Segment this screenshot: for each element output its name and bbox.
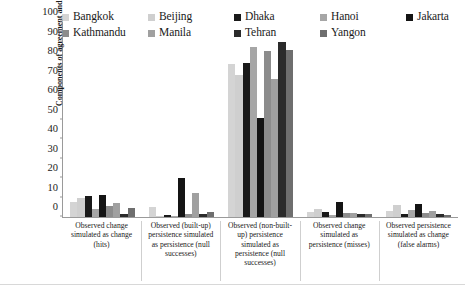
y-axis-tick-label: 10 — [24, 181, 63, 192]
legend-swatch-icon — [320, 14, 327, 21]
y-axis-tick-mark — [60, 60, 63, 61]
y-axis-tick-mark — [60, 99, 63, 100]
bar[interactable] — [178, 178, 185, 217]
category-separator — [300, 221, 301, 281]
bar[interactable] — [149, 207, 156, 217]
bar[interactable] — [228, 64, 235, 217]
bar[interactable] — [286, 50, 293, 217]
y-axis-tick-mark — [60, 216, 63, 217]
bar[interactable] — [307, 212, 314, 217]
y-axis-tick-mark — [60, 177, 63, 178]
bar[interactable] — [264, 51, 271, 217]
bar[interactable] — [156, 216, 163, 217]
bar[interactable] — [235, 75, 242, 217]
bar-group — [142, 22, 221, 217]
bar[interactable] — [343, 213, 350, 217]
footer-divider — [0, 284, 465, 285]
bar[interactable] — [365, 214, 372, 218]
category-separator — [379, 221, 380, 281]
bar[interactable] — [436, 214, 443, 217]
y-axis-tick-label: 50 — [24, 103, 63, 114]
y-axis-tick-mark — [60, 79, 63, 80]
y-axis-tick-label: 90 — [24, 25, 63, 36]
y-axis-tick-label: 20 — [24, 162, 63, 173]
bar[interactable] — [128, 208, 135, 217]
bar-group — [379, 22, 458, 217]
y-axis-tick-label: 60 — [24, 84, 63, 95]
bar[interactable] — [77, 198, 84, 217]
y-axis-tick-label: 80 — [24, 45, 63, 56]
bar[interactable] — [329, 215, 336, 217]
x-axis-category-label: Observed (non-built-up) persistence simu… — [220, 221, 299, 285]
category-separator — [220, 221, 221, 281]
bar[interactable] — [99, 195, 106, 217]
y-axis-tick-mark — [60, 21, 63, 22]
y-axis-tick-label: 30 — [24, 142, 63, 153]
y-axis-tick-mark — [60, 157, 63, 158]
bar[interactable] — [113, 203, 120, 217]
legend-swatch-icon — [406, 14, 413, 21]
bar[interactable] — [70, 202, 77, 217]
y-axis-tick-mark — [60, 196, 63, 197]
bar-groups — [63, 22, 458, 217]
bar[interactable] — [250, 47, 257, 217]
bar[interactable] — [401, 214, 408, 217]
bar[interactable] — [92, 209, 99, 217]
bar[interactable] — [415, 204, 422, 217]
bar[interactable] — [357, 214, 364, 217]
bar[interactable] — [192, 193, 199, 217]
bar[interactable] — [408, 210, 415, 217]
bar[interactable] — [393, 205, 400, 217]
y-axis-tick-label: 40 — [24, 123, 63, 134]
bar-group — [221, 22, 300, 217]
bar[interactable] — [85, 196, 92, 217]
bar[interactable] — [257, 118, 264, 217]
bar-chart: BangkokBeijingDhakaHanoiJakartaKathmandu… — [0, 0, 465, 291]
bar[interactable] — [322, 212, 329, 217]
plot-area: Components of agreement and disagreement… — [62, 22, 458, 218]
y-axis-tick-label: 0 — [24, 201, 63, 212]
bar[interactable] — [336, 202, 343, 217]
bar[interactable] — [207, 212, 214, 217]
x-axis-category-label: Observed change simulated as persistence… — [300, 221, 379, 285]
bar[interactable] — [350, 213, 357, 217]
bar[interactable] — [314, 209, 321, 217]
bar[interactable] — [271, 79, 278, 217]
bar-group — [300, 22, 379, 217]
bar[interactable] — [243, 63, 250, 217]
bar-group — [63, 22, 142, 217]
bar[interactable] — [185, 214, 192, 217]
bar[interactable] — [278, 42, 285, 218]
bar[interactable] — [106, 206, 113, 217]
bar[interactable] — [429, 211, 436, 217]
x-axis-category-label: Observed change simulated as change (hit… — [62, 221, 141, 285]
x-axis-labels: Observed change simulated as change (hit… — [62, 221, 458, 285]
category-separator — [141, 221, 142, 281]
bar[interactable] — [386, 211, 393, 217]
x-axis-category-label: Observed persistence simulated as change… — [379, 221, 458, 285]
x-axis-category-label: Observed (built-up) persistence simulate… — [141, 221, 220, 285]
y-axis-tick-mark — [60, 138, 63, 139]
y-axis-tick-mark — [60, 40, 63, 41]
legend-swatch-icon — [148, 14, 155, 21]
bar[interactable] — [444, 215, 451, 217]
bar[interactable] — [171, 216, 178, 217]
legend-swatch-icon — [234, 14, 241, 21]
bar[interactable] — [199, 214, 206, 217]
y-axis-tick-label: 70 — [24, 64, 63, 75]
bar[interactable] — [120, 214, 127, 217]
bar[interactable] — [164, 215, 171, 217]
y-axis-tick-label: 100 — [24, 6, 63, 17]
bar[interactable] — [422, 213, 429, 217]
y-axis-tick-mark — [60, 118, 63, 119]
